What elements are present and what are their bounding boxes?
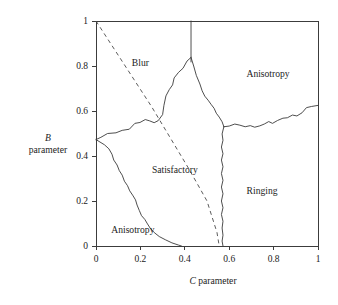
x-axis-title-rest: parameter [196,275,238,286]
region-label-anisotropy-lower-left: Anisotropy [111,224,154,235]
x-tick-label: 0.6 [223,254,235,264]
curve-dashed-guide-line [96,21,219,246]
y-tick-label: 1 [83,16,88,26]
region-label-anisotropy-upper-right: Anisotropy [246,68,289,79]
y-tick-label: 0.8 [76,61,88,71]
axis-frame-path [96,21,318,246]
x-tick-label: 1 [316,254,321,264]
region-label-ringing: Ringing [247,185,278,196]
x-tick-label: 0.2 [134,254,146,264]
y-axis-title-symbol: B [45,132,51,143]
x-tick-label: 0 [94,254,99,264]
y-tick-label: 0.4 [76,151,88,161]
x-tick-label: 0.8 [268,254,280,264]
y-axis-tick-labels: 00.20.40.60.81 [76,16,88,251]
region-diagram-plot: 00.20.40.60.81 00.20.40.60.81 BlurAnisot… [0,0,338,305]
region-label-blur: Blur [132,57,150,68]
region-boundary-curves [96,21,318,246]
figure-container: 00.20.40.60.81 00.20.40.60.81 BlurAnisot… [0,0,338,305]
plot-frame [96,21,318,246]
curve-right-satisfactory-anisotropy-boundary [191,57,224,126]
x-tick-label: 0.4 [179,254,191,264]
y-axis-title-rest: parameter [29,144,68,155]
y-tick-label: 0.2 [76,196,88,206]
x-axis-title: C parameter [189,275,237,286]
x-axis-ticks [96,246,318,250]
y-axis-title-symbol-line: B [45,132,51,143]
y-tick-label: 0 [83,241,88,251]
x-axis-tick-labels: 00.20.40.60.81 [94,254,321,264]
y-tick-label: 0.6 [76,106,88,116]
region-label-satisfactory: Satisfactory [152,164,198,175]
curve-upper-right-anisotropy-ringing-boundary [224,105,318,127]
curve-satisfactory-ringing-boundary [221,127,223,246]
curve-left-blur-satisfactory-boundary [96,57,191,139]
y-axis-ticks [92,21,96,246]
